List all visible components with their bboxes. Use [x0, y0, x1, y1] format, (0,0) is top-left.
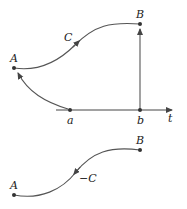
point-B-dot-bottom [138, 148, 142, 152]
point-A-dot-bottom [12, 193, 16, 197]
point-A-label-bottom: A [9, 179, 18, 192]
point-B-label: B [135, 8, 144, 21]
map-arrow-a-to-A [18, 73, 68, 109]
curve-orientation-diagram: A B C a b t A B −C [0, 0, 187, 209]
point-B-label-bottom: B [135, 134, 144, 147]
top-panel: A B C a b t [9, 8, 173, 127]
tick-b-label: b [137, 114, 144, 127]
point-A-label: A [9, 52, 18, 65]
curve-c-direction-arrow-icon [73, 42, 78, 47]
tick-a-dot [68, 108, 72, 112]
curve-c-label: C [64, 31, 73, 44]
curve-c [14, 23, 140, 68]
point-A-dot [12, 66, 16, 70]
tick-a-label: a [67, 114, 74, 127]
curve-neg-c-label: −C [79, 172, 97, 185]
t-axis-label: t [168, 112, 173, 125]
tick-b-dot [138, 108, 142, 112]
curve-neg-c [14, 149, 140, 196]
bottom-panel: A B −C [9, 134, 144, 197]
point-B-dot [138, 22, 142, 26]
